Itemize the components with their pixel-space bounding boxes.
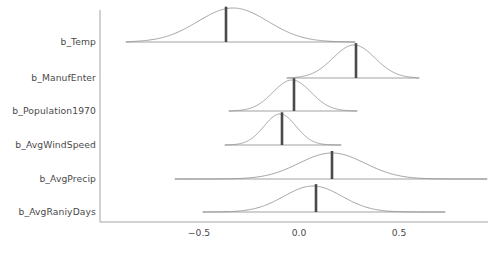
- density-fill-b-temp: [126, 8, 355, 42]
- density-fill-b-manufenter: [287, 45, 419, 78]
- ridgeline-chart: b_Temp b_ManufEnter b_Population1970 b_A…: [0, 0, 494, 256]
- density-ridges: [126, 7, 487, 212]
- plot-canvas: [0, 0, 494, 256]
- density-fill-b-avgraniydays: [203, 186, 445, 212]
